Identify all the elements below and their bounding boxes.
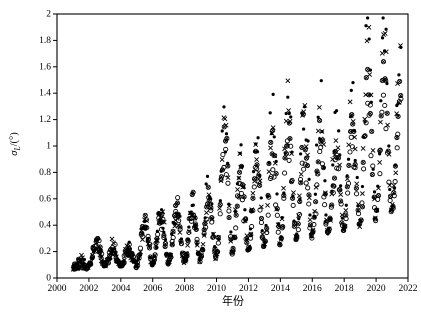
x-axis-label: 年份 xyxy=(57,292,408,308)
y-axis-label: σL/(°) xyxy=(8,112,24,176)
sigma-subscript: L xyxy=(13,146,22,150)
scatter-figure: σL/(°) 年份 xyxy=(0,0,421,318)
y-axis-unit: /(°) xyxy=(8,132,19,146)
sigma-symbol: σ xyxy=(8,151,19,156)
scatter-plot-canvas xyxy=(0,0,421,318)
